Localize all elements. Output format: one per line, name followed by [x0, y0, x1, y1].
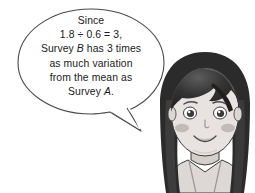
eye-right	[214, 107, 227, 119]
character-figure	[160, 52, 250, 193]
ear-right	[234, 107, 242, 121]
bubble-outline	[18, 9, 164, 130]
blush-right	[221, 124, 235, 132]
illustration-scene: Since 1.8 ÷ 0.6 = 3, Survey B has 3 time…	[0, 0, 255, 193]
eye-left	[184, 107, 197, 119]
blush-left	[175, 124, 189, 132]
scene-artwork	[0, 0, 255, 193]
speech-bubble	[18, 9, 164, 131]
